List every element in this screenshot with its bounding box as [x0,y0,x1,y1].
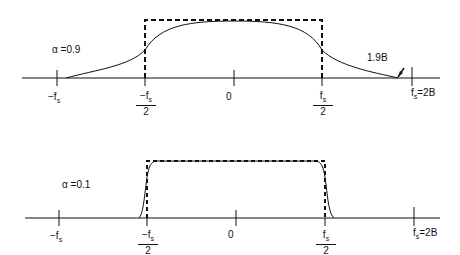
bandwidth-annotation: 1.9B [367,53,388,63]
alpha-label-top: α =0.9 [52,45,80,55]
tick-label-fs-bottom: fs=2B [413,228,437,242]
tick-label-neg-half-fs-top: −fs2 [136,90,156,117]
tick-label-fs-top: fs=2B [411,88,435,102]
tick-label-half-fs-bottom: fs2 [316,229,336,255]
tick-label-half-fs-top: fs2 [313,90,333,117]
rolloff-curve-0.9 [66,21,398,78]
tick-label-zero-top: 0 [226,92,232,102]
tick-label-zero-bottom: 0 [228,230,234,240]
alpha-label-bottom: α =0.1 [62,180,90,190]
raised-cosine-spectra [0,0,460,255]
rolloff-curve-0.1 [139,161,334,218]
ideal-rect-spectrum-bottom [147,161,325,218]
tick-label-neg-fs-top: −fs [48,92,60,106]
tick-label-neg-half-fs-bottom: −fs2 [138,229,158,255]
tick-label-neg-fs-bottom: −fs [50,231,62,245]
